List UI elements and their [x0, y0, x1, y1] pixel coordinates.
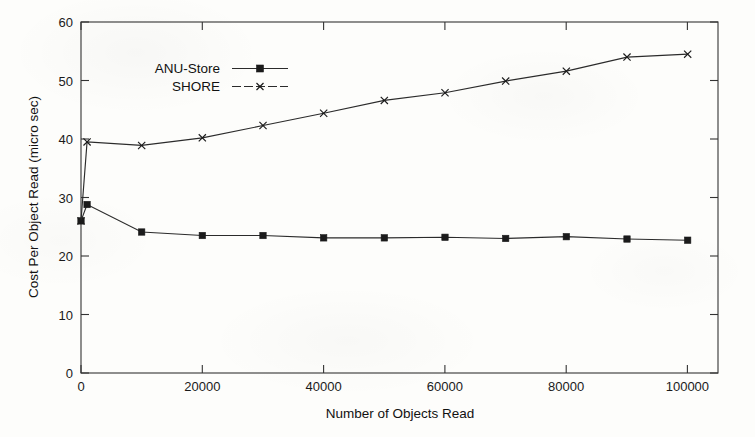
x-tick-label-40000: 40000 [306, 379, 342, 394]
y-tick-label-10: 10 [59, 308, 73, 323]
x-tick-label-100000: 100000 [666, 379, 709, 394]
legend-label-shore: SHORE [172, 79, 220, 94]
line-chart: 0 10 20 30 40 50 60 0 20000 40000 60000 … [0, 0, 755, 437]
x-tick-label-60000: 60000 [427, 379, 463, 394]
data-point-marker [442, 234, 448, 240]
y-tick-label-20: 20 [59, 249, 73, 264]
y-tick-label-50: 50 [59, 74, 73, 89]
y-axis-title: Cost Per Object Read (micro sec) [26, 96, 41, 298]
chart-legend: ANU-Store SHORE [155, 61, 288, 94]
y-tick-label-60: 60 [59, 15, 73, 30]
data-point-marker [138, 229, 144, 235]
data-point-marker [260, 232, 266, 238]
data-point-marker [624, 236, 630, 242]
data-point-marker [84, 201, 90, 207]
series-layer [77, 51, 691, 244]
data-point-marker [199, 232, 205, 238]
y-tick-label-0: 0 [66, 366, 73, 381]
x-tick-label-80000: 80000 [548, 379, 584, 394]
data-point-marker [502, 235, 508, 241]
x-tick-label-0: 0 [77, 379, 84, 394]
legend-label-anu-store: ANU-Store [155, 61, 220, 76]
legend-marker-filled-square [257, 65, 264, 72]
data-point-marker [381, 235, 387, 241]
data-point-marker [320, 235, 326, 241]
data-point-marker [684, 237, 690, 243]
series-shore [77, 51, 691, 225]
y-tick-label-40: 40 [59, 132, 73, 147]
series-anu-store [78, 201, 691, 243]
y-tick-label-30: 30 [59, 191, 73, 206]
data-point-marker [563, 233, 569, 239]
figure-canvas: 0 10 20 30 40 50 60 0 20000 40000 60000 … [0, 0, 755, 437]
x-tick-label-20000: 20000 [184, 379, 220, 394]
x-axis-title: Number of Objects Read [326, 406, 475, 421]
